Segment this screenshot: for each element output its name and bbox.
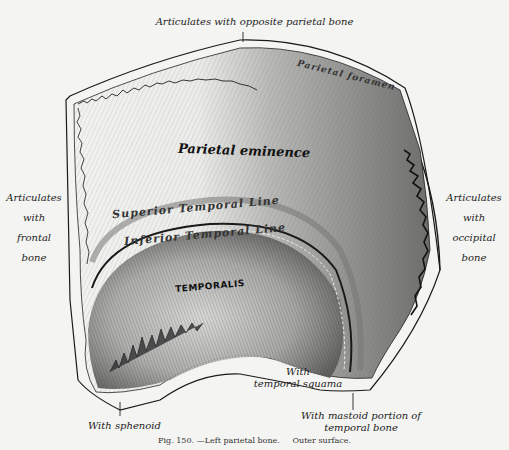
caption-subtitle: Outer surface. [292, 436, 351, 445]
label-line: frontal [4, 228, 64, 248]
label-mastoid: With mastoid portion of temporal bone [296, 410, 426, 434]
label-line: with [444, 208, 504, 228]
label-temporal-squama: With temporal squama [248, 366, 348, 390]
caption-number: Fig. 150. [158, 436, 194, 445]
label-line: bone [4, 248, 64, 268]
label-line: Articulates [444, 188, 504, 208]
label-opposite-parietal: Articulates with opposite parietal bone [0, 14, 509, 29]
label-line: temporal squama [248, 378, 348, 390]
label-line: With [248, 366, 348, 378]
label-line: with [4, 208, 64, 228]
label-line: occipital [444, 228, 504, 248]
label-sphenoid: With sphenoid [88, 418, 161, 433]
label-occipital-border: Articulates with occipital bone [444, 188, 504, 268]
label-line: Articulates [4, 188, 64, 208]
label-line: With mastoid portion of [296, 410, 426, 422]
label-frontal-border: Articulates with frontal bone [4, 188, 64, 268]
figure-caption: Fig. 150. —Left parietal bone. Outer sur… [0, 436, 509, 445]
label-line: temporal bone [296, 422, 426, 434]
caption-title: —Left parietal bone. [197, 436, 280, 445]
label-line: bone [444, 248, 504, 268]
